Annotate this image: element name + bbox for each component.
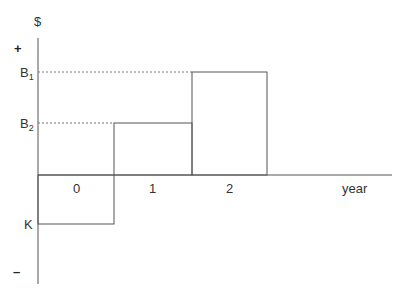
x-axis-label: year [342,181,368,196]
period-label-2: 2 [226,181,233,196]
period-label-0: 0 [73,181,80,196]
cash-flow-diagram: $ + – B1 B2 K 0 1 2 year [0,0,404,297]
positive-sign: + [14,41,22,56]
label-k: K [24,217,33,232]
svg-text:B2: B2 [20,116,34,133]
y-axis-label: $ [34,14,42,29]
svg-text:B1: B1 [20,65,34,82]
negative-sign: – [13,264,20,279]
label-b1: B1 [20,65,34,82]
label-b2: B2 [20,116,34,133]
period-label-1: 1 [149,181,156,196]
bar-year-2 [192,72,267,175]
bar-year-1 [114,123,192,175]
